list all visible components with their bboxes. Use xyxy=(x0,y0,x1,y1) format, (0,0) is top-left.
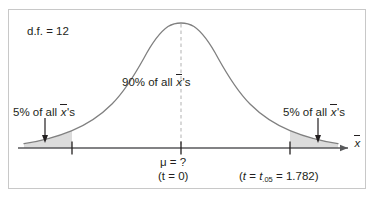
t-zero-label: (t = 0) xyxy=(158,170,188,183)
t-critical-label: (t = t.05 = 1.782) xyxy=(239,170,319,185)
right-tail-label-text: 5% of all xyxy=(283,106,330,118)
xbar-symbol: x xyxy=(354,137,361,150)
degrees-of-freedom-label: d.f. = 12 xyxy=(27,25,69,38)
xbar-symbol: x xyxy=(60,106,67,119)
center-region-label-suffix: 's xyxy=(182,76,190,88)
center-region-label-text: 90% of all xyxy=(122,76,176,88)
left-tail-label-suffix: 's xyxy=(67,106,75,118)
axis-variable-label: x xyxy=(354,137,361,150)
t-critical-subscript: .05 xyxy=(262,175,272,184)
t-critical-equals-1: = xyxy=(246,170,259,182)
right-tail-label-suffix: 's xyxy=(337,106,345,118)
mean-label: μ = ? xyxy=(160,156,186,169)
figure-page: d.f. = 12 90% of all x's 5% of all x's 5… xyxy=(0,0,378,202)
left-tail-label-text: 5% of all xyxy=(13,106,60,118)
center-region-label: 90% of all x's xyxy=(122,76,190,89)
right-tail-label: 5% of all x's xyxy=(283,106,345,119)
xbar-symbol: x xyxy=(176,76,183,89)
left-tail-label: 5% of all x's xyxy=(13,106,75,119)
xbar-symbol: x xyxy=(330,106,337,119)
t-critical-value: = 1.782) xyxy=(273,170,319,182)
